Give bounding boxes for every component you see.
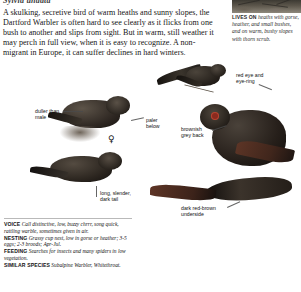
- bird-lower-left-illustration: [30, 150, 150, 202]
- facts-block: VOICE Call distinctive, low, buzzy chrrr…: [4, 221, 132, 269]
- facts-divider: [4, 218, 132, 219]
- bird-underside-shape: [60, 126, 100, 142]
- leader-line-red-eye: [259, 84, 272, 90]
- female-symbol: ♀: [108, 134, 115, 144]
- leader-line-tail: [96, 186, 97, 197]
- habitat-twig: [238, 0, 260, 6]
- fact-value: Subalpine Warbler, Whitethroat.: [51, 262, 120, 268]
- field-guide-page: Sylvia undata A skulking, secretive bird…: [0, 0, 301, 292]
- bird-female-illustration: [48, 92, 144, 154]
- bird-tail-illustration: [150, 172, 301, 220]
- bird-tail-shape: [205, 174, 293, 205]
- label-paler-below: paler below: [146, 117, 160, 130]
- bird-head-shape: [106, 96, 130, 115]
- fact-key: FEEDING: [4, 248, 27, 254]
- habitat-twig: [262, 3, 288, 8]
- fact-row: NESTING Grassy cup nest, low in gorse or…: [4, 235, 132, 248]
- habitat-note: LIVES ON heaths with gorse, heather, and…: [232, 14, 299, 43]
- label-dark-red-brown-underside: dark red-brown underside: [181, 205, 216, 218]
- habitat-note-heading: LIVES ON: [232, 14, 257, 20]
- fact-key: SIMILAR SPECIES: [4, 262, 50, 268]
- label-red-eye-and-eye-ring: red eye and eye-ring: [236, 72, 263, 85]
- habitat-twig: [276, 0, 293, 5]
- fact-row: SIMILAR SPECIES Subalpine Warbler, White…: [4, 262, 132, 269]
- species-description: A skulking, secretive bird of warm heath…: [3, 8, 215, 58]
- label-long-slender-dark-tail: long, slender, dark tail: [100, 190, 131, 203]
- label-duller-than-male: duller than male: [35, 108, 59, 121]
- fact-key: NESTING: [4, 235, 27, 241]
- bird-underside-shape: [150, 183, 216, 203]
- leader-line-duller-than-male: [63, 111, 83, 112]
- fact-row: VOICE Call distinctive, low, buzzy chrrr…: [4, 221, 132, 234]
- fact-value: Call distinctive, low, buzzy chrrr, song…: [4, 221, 119, 234]
- label-brownish-grey-back: brownish grey back: [181, 126, 204, 139]
- fact-row: FEEDING Searches for insects and many sp…: [4, 248, 132, 261]
- species-scientific-name: Sylvia undata: [3, 0, 51, 5]
- bird-eye: [212, 113, 218, 119]
- bird-head-shape: [210, 64, 226, 77]
- bird-head-shape: [98, 152, 122, 170]
- fact-key: VOICE: [4, 221, 20, 227]
- habitat-photo: [232, 0, 301, 13]
